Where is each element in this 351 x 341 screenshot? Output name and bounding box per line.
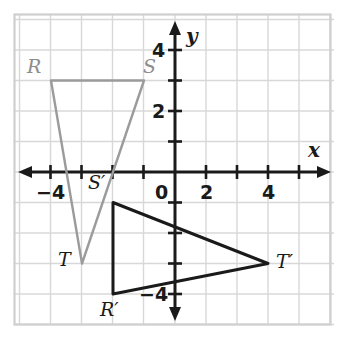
x-tick-label-4: 4 xyxy=(262,183,275,202)
vertex-label-t: T xyxy=(58,250,71,269)
y-axis-label: y xyxy=(186,26,198,46)
vertex-label-r-prime: R′ xyxy=(100,300,119,319)
x-axis-label: x xyxy=(308,140,320,160)
x-tick-label-neg4: −4 xyxy=(36,183,65,202)
x-tick-label-2: 2 xyxy=(200,183,213,202)
plot-canvas xyxy=(0,0,351,341)
origin-label: 0 xyxy=(155,183,168,202)
grid-frame xyxy=(15,15,331,325)
triangle-rst-prime xyxy=(113,203,268,295)
y-tick-label-neg4: −4 xyxy=(139,285,168,304)
vertex-label-t-prime: T′ xyxy=(276,252,293,271)
vertex-label-s-prime: S′ xyxy=(88,173,105,192)
vertex-label-r: R xyxy=(27,57,41,76)
y-tick-label-2: 2 xyxy=(152,102,165,121)
coordinate-plane-figure: x y −4 2 4 0 4 2 −4 R S T S′ R′ T′ xyxy=(0,0,351,341)
vertex-label-s: S xyxy=(143,57,156,76)
